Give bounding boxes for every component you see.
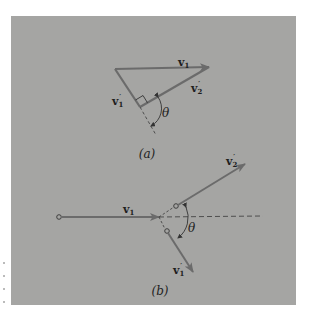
part-b-v2-prime-label: v2′ — [225, 152, 237, 169]
part-b-dashed-reference-line — [159, 216, 263, 217]
part-b-v2-prime-arrow — [178, 164, 245, 205]
part-b-collision: v1 v2′ v1′ θ (b) — [57, 152, 263, 298]
part-a-v1-label: v1 — [177, 56, 189, 70]
collision-diagram: v1 v2′ v1′ θ (a) v1 v2′ v1′ θ (b) — [0, 0, 309, 310]
part-b-theta-label: θ — [188, 221, 196, 235]
part-a-theta-label: θ — [162, 106, 170, 120]
part-a-v2-prime-label: v2′ — [190, 79, 202, 96]
part-b-theta-arc — [178, 207, 188, 238]
part-a-dashed-extension — [140, 107, 156, 135]
part-a-v1-prime-label: v1′ — [111, 92, 123, 109]
part-a-theta-arc — [151, 97, 162, 126]
part-a-caption: (a) — [139, 147, 156, 161]
part-b-caption: (b) — [151, 284, 168, 298]
scattered-particle-2 — [174, 204, 179, 209]
part-a-vector-triangle: v1 v2′ v1′ θ (a) — [111, 56, 209, 161]
incident-particle — [57, 215, 62, 220]
part-b-dashed-to-upper — [159, 207, 174, 217]
part-a-v1-arrow — [115, 67, 209, 69]
part-b-v1-prime-label: v1′ — [172, 261, 184, 278]
part-b-v1-label: v1 — [122, 203, 134, 217]
part-b-dashed-to-lower — [159, 217, 165, 229]
